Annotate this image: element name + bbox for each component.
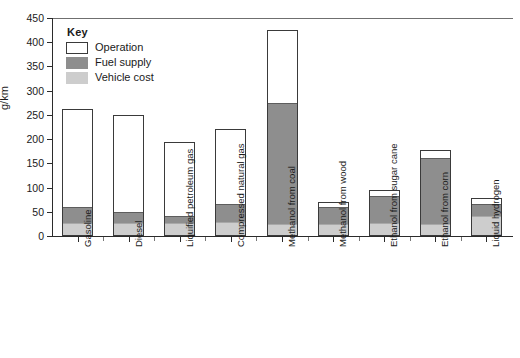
bar-diesel bbox=[113, 115, 144, 236]
x-minor-tick-mark bbox=[103, 237, 104, 241]
y-tick-label: 450 bbox=[26, 10, 44, 26]
y-tick-label: 250 bbox=[26, 107, 44, 123]
legend-label-vehicle-cost: Vehicle cost bbox=[95, 71, 154, 84]
x-tick-mark bbox=[486, 237, 487, 242]
x-minor-tick-mark bbox=[359, 237, 360, 241]
vehicle-cost-swatch-icon bbox=[66, 72, 88, 84]
x-minor-tick-mark bbox=[154, 237, 155, 241]
y-axis-title: g/km bbox=[0, 86, 10, 110]
x-minor-tick-mark bbox=[205, 237, 206, 241]
x-tick-mark bbox=[180, 237, 181, 242]
x-tick-mark bbox=[282, 237, 283, 242]
x-minor-tick-mark bbox=[461, 237, 462, 241]
x-tick-mark bbox=[333, 237, 334, 242]
y-tick-label: 350 bbox=[26, 58, 44, 74]
legend-item-fuel-supply: Fuel supply bbox=[66, 56, 154, 69]
x-tick-mark bbox=[78, 237, 79, 242]
x-minor-tick-mark bbox=[256, 237, 257, 241]
legend-title: Key bbox=[67, 26, 154, 38]
y-tick-label: 100 bbox=[26, 180, 44, 196]
y-tick-label: 300 bbox=[26, 83, 44, 99]
x-tick-mark bbox=[384, 237, 385, 242]
y-tick-label: 200 bbox=[26, 131, 44, 147]
x-axis-label-methanol-from-coal: Methanol from coal bbox=[286, 166, 297, 247]
x-axis-label-methanol-from-wood: Methanol from wood bbox=[337, 161, 348, 247]
x-axis-label-ethanol-from-corn: Ethanol from corn bbox=[439, 172, 450, 247]
legend-label-operation: Operation bbox=[95, 41, 143, 54]
x-tick-mark bbox=[435, 237, 436, 242]
x-minor-tick-mark bbox=[410, 237, 411, 241]
x-axis-label-liquified-petroleum-gas: Liquified petroleum gas bbox=[184, 149, 195, 247]
x-axis-label-liquid-hydrogen: Liquid hydrogen bbox=[490, 179, 501, 247]
y-tick-label: 50 bbox=[32, 204, 44, 220]
fuel-supply-swatch-icon bbox=[66, 57, 88, 69]
y-tick-mark bbox=[47, 236, 52, 237]
x-axis-label-diesel: Diesel bbox=[133, 221, 144, 247]
x-minor-tick-mark bbox=[308, 237, 309, 241]
y-tick-label: 0 bbox=[38, 228, 44, 244]
y-tick-label: 400 bbox=[26, 34, 44, 50]
legend-item-operation: Operation bbox=[66, 41, 154, 54]
chart-legend: Key Operation Fuel supply Vehicle cost bbox=[60, 22, 162, 91]
x-tick-mark bbox=[231, 237, 232, 242]
legend-label-fuel-supply: Fuel supply bbox=[95, 56, 151, 69]
x-tick-mark bbox=[129, 237, 130, 242]
x-axis-label-compressed-natural-gas: Compressed natural gas bbox=[235, 144, 246, 248]
legend-item-vehicle-cost: Vehicle cost bbox=[66, 71, 154, 84]
emissions-bar-chart: g/km 450400350300250200150100500 Gasolin… bbox=[0, 0, 520, 358]
x-axis-label-ethanol-from-sugar-cane: Ethanol from sugar cane bbox=[388, 143, 399, 247]
x-axis-label-gasoline: Gasoline bbox=[82, 210, 93, 248]
y-tick-label: 150 bbox=[26, 155, 44, 171]
operation-swatch-icon bbox=[66, 42, 88, 54]
